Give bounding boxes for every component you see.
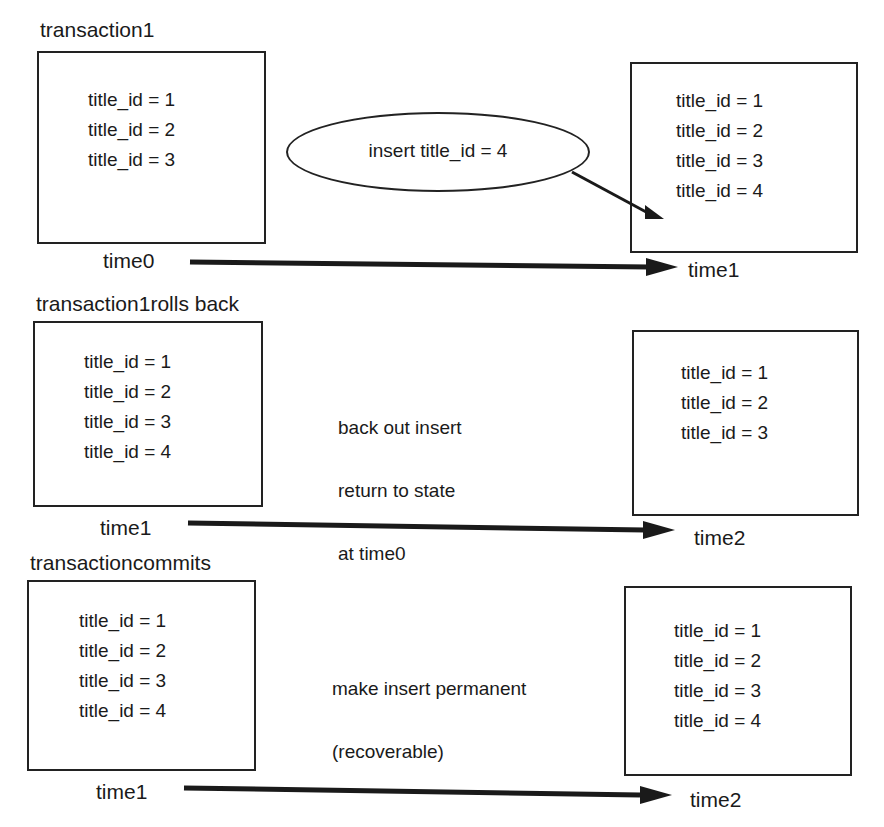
row: title_id = 1 xyxy=(88,85,175,115)
row: title_id = 1 xyxy=(84,347,171,377)
rollback-note: back out insert return to state at time0 xyxy=(338,375,462,585)
row: title_id = 4 xyxy=(84,437,171,467)
row: title_id = 3 xyxy=(88,145,175,175)
panel-2-start-time: time1 xyxy=(100,516,151,540)
row-list: title_id = 1 title_id = 2 title_id = 3 t… xyxy=(674,616,761,736)
row-list: title_id = 1 title_id = 2 title_id = 3 t… xyxy=(676,86,763,206)
timeline-arrow-icon xyxy=(184,786,672,804)
insert-action-label: insert title_id = 4 xyxy=(286,140,590,162)
row: title_id = 2 xyxy=(88,115,175,145)
row: title_id = 2 xyxy=(79,636,166,666)
panel-1-state-after: title_id = 1 title_id = 2 title_id = 3 t… xyxy=(630,62,858,253)
row: title_id = 1 xyxy=(676,86,763,116)
panel-2-heading: transaction1rolls back xyxy=(36,292,239,316)
row-list: title_id = 1 title_id = 2 title_id = 3 xyxy=(88,85,175,175)
row: title_id = 1 xyxy=(79,606,166,636)
panel-1-start-time: time0 xyxy=(103,249,154,273)
row: title_id = 2 xyxy=(681,388,768,418)
panel-1-end-time: time1 xyxy=(688,258,739,282)
row: title_id = 1 xyxy=(681,358,768,388)
note-line: at time0 xyxy=(338,543,462,564)
row: title_id = 3 xyxy=(681,418,768,448)
row: title_id = 2 xyxy=(676,116,763,146)
panel-1-state-before: title_id = 1 title_id = 2 title_id = 3 xyxy=(37,51,266,244)
timeline-arrow-icon xyxy=(190,258,678,276)
row-list: title_id = 1 title_id = 2 title_id = 3 t… xyxy=(79,606,166,726)
row: title_id = 4 xyxy=(674,706,761,736)
row: title_id = 2 xyxy=(674,646,761,676)
note-line: return to state xyxy=(338,480,462,501)
panel-1-heading: transaction1 xyxy=(40,18,154,42)
commit-note: make insert permanent (recoverable) xyxy=(332,636,526,783)
panel-3-end-time: time2 xyxy=(690,788,741,812)
note-line: make insert permanent xyxy=(332,678,526,699)
row: title_id = 3 xyxy=(674,676,761,706)
note-line: back out insert xyxy=(338,417,462,438)
row: title_id = 3 xyxy=(84,407,171,437)
row: title_id = 3 xyxy=(676,146,763,176)
panel-2-end-time: time2 xyxy=(694,526,745,550)
row: title_id = 2 xyxy=(84,377,171,407)
panel-3-state-after: title_id = 1 title_id = 2 title_id = 3 t… xyxy=(624,586,852,776)
row: title_id = 4 xyxy=(79,696,166,726)
panel-3-state-before: title_id = 1 title_id = 2 title_id = 3 t… xyxy=(27,580,256,771)
row: title_id = 1 xyxy=(674,616,761,646)
panel-2-state-before: title_id = 1 title_id = 2 title_id = 3 t… xyxy=(33,321,263,507)
row: title_id = 3 xyxy=(79,666,166,696)
note-line: (recoverable) xyxy=(332,741,526,762)
row-list: title_id = 1 title_id = 2 title_id = 3 xyxy=(681,358,768,448)
panel-3-heading: transactioncommits xyxy=(30,551,211,575)
panel-3-start-time: time1 xyxy=(96,780,147,804)
panel-2-state-after: title_id = 1 title_id = 2 title_id = 3 xyxy=(632,330,859,516)
row: title_id = 4 xyxy=(676,176,763,206)
row-list: title_id = 1 title_id = 2 title_id = 3 t… xyxy=(84,347,171,467)
